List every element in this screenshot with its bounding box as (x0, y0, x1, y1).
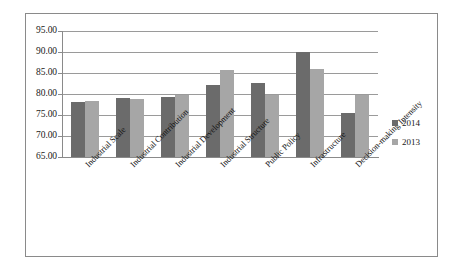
legend-item: 2013 (392, 137, 438, 147)
figure-canvas: 95.0090.0085.0080.0075.0070.0065.00 Indu… (0, 0, 463, 270)
bar-2014-infrastructure (296, 52, 310, 157)
legend-swatch-icon (392, 120, 398, 126)
bar-2014-industrial-scale (71, 102, 85, 157)
bar-chart: 95.0090.0085.0080.0075.0070.0065.00 Indu… (0, 0, 463, 270)
y-axis-line (62, 31, 63, 158)
y-axis-tick-label: 70.00 (36, 131, 57, 141)
legend-item: 2014 (392, 118, 438, 128)
legend-label: 2014 (402, 119, 420, 128)
legend-label: 2013 (402, 138, 420, 147)
y-axis-tick-label: 80.00 (36, 89, 57, 99)
y-axis-tick-label: 65.00 (36, 152, 57, 162)
legend-swatch-icon (392, 139, 398, 145)
y-axis-tick-labels: 95.0090.0085.0080.0075.0070.0065.00 (0, 0, 57, 270)
y-axis-tick-label: 95.00 (36, 26, 57, 36)
bar-group (62, 31, 107, 157)
y-axis-tick-label: 90.00 (36, 47, 57, 57)
bar-2013-infrastructure (310, 69, 324, 157)
y-axis-tick-label: 85.00 (36, 68, 57, 78)
chart-legend: 20142013 (392, 118, 438, 156)
y-axis-tick-label: 75.00 (36, 110, 57, 120)
